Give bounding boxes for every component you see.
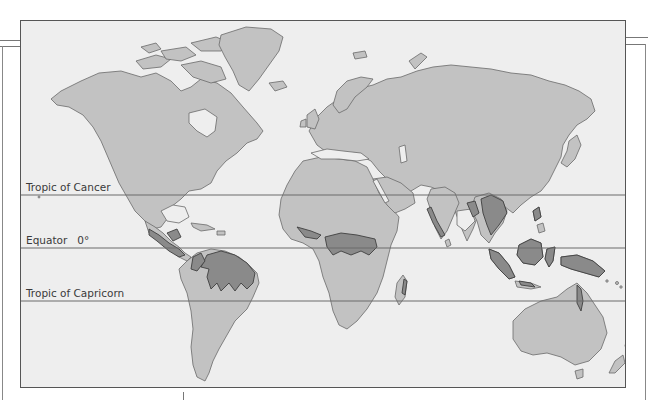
continent-north-america — [51, 71, 263, 229]
page-rule-left-inner — [0, 46, 20, 47]
world-map-frame: Tropic of Cancer Equator 0° Tropic of Ca… — [20, 20, 626, 388]
tropic-of-cancer-label: Tropic of Cancer — [26, 181, 111, 193]
new-zealand — [625, 337, 626, 355]
rainforest-sumatra — [489, 249, 515, 279]
page-rule-left — [0, 40, 20, 41]
continent-australia — [513, 283, 607, 365]
rainforest-new-guinea — [561, 255, 605, 277]
equator-label: Equator 0° — [26, 234, 89, 246]
tropic-of-capricorn-label: Tropic of Capricorn — [26, 287, 124, 299]
rainforest-philippines — [533, 207, 541, 221]
page-border-right — [645, 44, 646, 400]
page-rule-right-inner — [626, 44, 646, 45]
land-masses — [38, 27, 626, 381]
world-map — [21, 21, 626, 388]
page-rule-right — [626, 37, 648, 38]
rainforest-sulawesi — [545, 247, 555, 267]
greenland — [219, 27, 283, 91]
rainforest-borneo — [517, 239, 543, 265]
page-border-left — [2, 46, 3, 400]
page-tick-bottom — [183, 392, 184, 400]
